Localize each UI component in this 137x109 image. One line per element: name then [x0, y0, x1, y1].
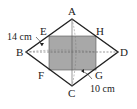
label-e: E [40, 25, 47, 37]
label-a: A [68, 5, 76, 17]
dimension-14cm: 14 cm [7, 31, 32, 42]
label-c: C [68, 87, 75, 99]
label-d: D [120, 46, 128, 58]
rhombus-diagram: A B C D E F G H 14 cm 10 cm [0, 0, 137, 109]
label-b: B [16, 46, 23, 58]
shaded-rectangle [49, 36, 96, 70]
arrow-14cm [40, 43, 44, 46]
label-g: G [95, 69, 103, 81]
label-h: H [96, 25, 104, 37]
dimension-10cm: 10 cm [90, 83, 115, 94]
label-f: F [38, 69, 44, 81]
